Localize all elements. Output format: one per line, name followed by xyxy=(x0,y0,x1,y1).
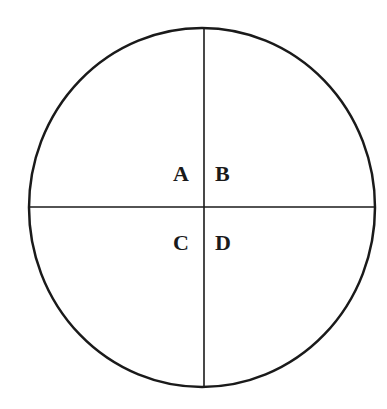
quadrant-label-d: D xyxy=(215,232,231,254)
quadrant-label-b: B xyxy=(215,163,230,185)
quadrant-label-a: A xyxy=(173,163,189,185)
quadrant-label-c: C xyxy=(173,232,189,254)
circle-quadrant-diagram xyxy=(0,0,387,409)
